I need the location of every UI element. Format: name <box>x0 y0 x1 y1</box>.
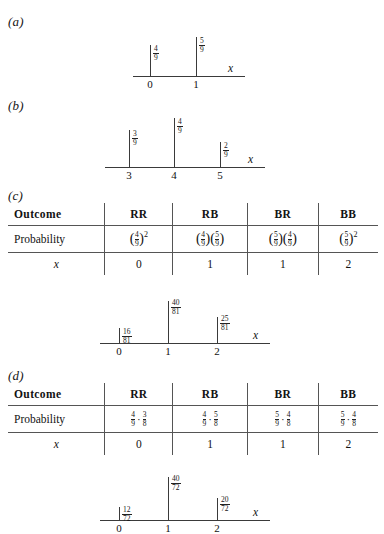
table-d-col-header-rr: RR <box>105 383 173 406</box>
plot-d-tick-1: 1 <box>157 522 179 534</box>
plot-a-tick-0: 0 <box>139 78 161 90</box>
table-d-probability-row: Probability 49·38 49·58 59·48 59·48 <box>8 406 378 433</box>
table-c-prob-br: (59)(49) <box>247 226 318 253</box>
plot-c-tick-1: 1 <box>157 345 179 357</box>
plot-d-spike-1 <box>168 477 169 520</box>
table-c-col-header-rb: RB <box>173 203 248 226</box>
plot-b-value-3-denominator: 9 <box>132 139 138 147</box>
table-d: Outcome RR RB BR BB Probability 49·38 49… <box>8 383 378 455</box>
plot-d-value-2-denominator: 72 <box>220 505 230 513</box>
plot-b-axis-label: x <box>248 153 253 165</box>
plot-c-value-0-denominator: 81 <box>122 337 132 345</box>
plot-c-tick-0: 0 <box>108 345 130 357</box>
table-d-col-header-br: BR <box>247 383 318 406</box>
plot-a-spike-0 <box>150 45 151 76</box>
table-c-x-bb: 2 <box>318 253 378 276</box>
table-d-prob-rb-den2: 8 <box>214 420 218 428</box>
plot-d-tick-0: 0 <box>108 522 130 534</box>
table-d-prob-rr: 49·38 <box>105 406 173 433</box>
table-d-prob-br-den1: 9 <box>275 420 279 428</box>
table-d-prob-rr-den1: 9 <box>131 420 135 428</box>
plot-b-tick-3: 3 <box>118 169 140 181</box>
table-d-x-bb: 2 <box>318 433 378 456</box>
table-d-col-header-rb: RB <box>173 383 248 406</box>
plot-d-value-1-denominator: 72 <box>171 484 181 492</box>
plot-d-tick-2: 2 <box>206 522 228 534</box>
plot-d-spike-0 <box>119 507 120 520</box>
table-c-col-header-bb: BB <box>318 203 378 226</box>
table-d-prob-rb: 49·58 <box>173 406 248 433</box>
table-d-prob-bb-den1: 9 <box>341 420 345 428</box>
table-d-row-header-probability: Probability <box>8 406 105 433</box>
table-c-x-rb: 1 <box>173 253 248 276</box>
plot-a-value-1: 5 9 <box>199 37 205 53</box>
table-d-prob-br: 59·48 <box>247 406 318 433</box>
plot-d-value-2: 20 72 <box>220 496 230 512</box>
plot-c-value-2-denominator: 81 <box>220 324 230 332</box>
plot-d-spike-2 <box>217 498 218 520</box>
table-d-prob-rr-den2: 8 <box>143 420 147 428</box>
table-d-prob-bb: 59·48 <box>318 406 378 433</box>
table-d-x-rr: 0 <box>105 433 173 456</box>
plot-c-spike-0 <box>119 328 120 343</box>
plot-d-value-1: 40 72 <box>171 475 181 491</box>
table-d-col-header-bb: BB <box>318 383 378 406</box>
table-d-row-header-outcome: Outcome <box>8 383 105 406</box>
table-c-prob-rb: (49)(59) <box>173 226 248 253</box>
table-c-prob-rr: (49)2 <box>105 226 173 253</box>
table-c-prob-bb: (59)2 <box>318 226 378 253</box>
table-d-header-row: Outcome RR RB BR BB <box>8 383 378 406</box>
plot-b-value-4-denominator: 9 <box>177 127 183 135</box>
plot-a-axis-label: x <box>228 62 233 74</box>
table-d-x-rb: 1 <box>173 433 248 456</box>
table-c-header-row: Outcome RR RB BR BB <box>8 203 378 226</box>
plot-a-value-0: 4 9 <box>153 45 159 61</box>
table-c-row-header-outcome: Outcome <box>8 203 105 226</box>
plot-b-value-5-denominator: 9 <box>223 151 229 159</box>
table-c: Outcome RR RB BR BB Probability (49)2 (4… <box>8 203 378 275</box>
plot-a-axis-line <box>133 76 245 77</box>
plot-b-spike-4 <box>174 118 175 167</box>
table-d-x-row: x 0 1 1 2 <box>8 433 378 456</box>
plot-c-value-1-denominator: 81 <box>171 308 181 316</box>
part-label-d: (d) <box>8 368 24 384</box>
plot-b: 3 9 4 9 2 9 3 4 5 x <box>0 92 384 182</box>
table-c-row-header-x: x <box>8 253 105 276</box>
plot-d-axis-label: x <box>253 506 258 518</box>
table-c-x-br: 1 <box>247 253 318 276</box>
figure-page: (a) 4 9 5 9 0 1 x (b) 3 <box>0 0 384 534</box>
table-d-row-header-x: x <box>8 433 105 456</box>
table-c-x-row: x 0 1 1 2 <box>8 253 378 276</box>
plot-c: 16 81 40 81 25 81 0 1 2 x <box>0 288 384 363</box>
plot-a-tick-1: 1 <box>185 78 207 90</box>
table-c-prob-bb-exp: 2 <box>353 230 357 239</box>
plot-b-spike-3 <box>129 130 130 167</box>
plot-a-value-1-denominator: 9 <box>199 46 205 54</box>
table-c-prob-rb-den2: 9 <box>215 240 219 248</box>
table-c-probability-row: Probability (49)2 (49)(59) (59)(49) (59)… <box>8 226 378 253</box>
plot-c-spike-2 <box>217 317 218 343</box>
plot-b-value-5: 2 9 <box>223 142 229 158</box>
plot-c-value-0: 16 81 <box>122 328 132 344</box>
table-c-prob-bb-den: 9 <box>345 240 349 248</box>
plot-c-tick-2: 2 <box>206 345 228 357</box>
table-c-row-header-probability: Probability <box>8 226 105 253</box>
plot-c-axis-label: x <box>253 329 258 341</box>
part-label-c: (c) <box>8 188 23 204</box>
plot-a-spike-1 <box>196 37 197 76</box>
table-d-x-br: 1 <box>247 433 318 456</box>
table-d-prob-bb-den2: 8 <box>352 420 356 428</box>
plot-c-value-1: 40 81 <box>171 299 181 315</box>
table-c-x-rr: 0 <box>105 253 173 276</box>
table-d-prob-rb-den1: 9 <box>203 420 207 428</box>
plot-a-value-0-denominator: 9 <box>153 54 159 62</box>
plot-b-tick-4: 4 <box>163 169 185 181</box>
plot-b-value-4: 4 9 <box>177 118 183 134</box>
table-c-col-header-br: BR <box>247 203 318 226</box>
table-c-prob-rr-exp: 2 <box>144 230 148 239</box>
plot-d-value-0: 12 72 <box>122 506 132 522</box>
plot-c-spike-1 <box>168 301 169 343</box>
table-d-prob-br-den2: 8 <box>287 420 291 428</box>
plot-b-spike-5 <box>220 142 221 167</box>
plot-c-value-2: 25 81 <box>220 315 230 331</box>
